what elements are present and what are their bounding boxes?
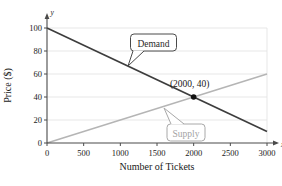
x-tick-label: 3000 bbox=[259, 148, 276, 158]
equilibrium-annotation: (2000, 40) bbox=[170, 79, 210, 90]
supply-demand-figure: xy050010001500200025003000020406080100Nu… bbox=[0, 0, 282, 186]
supply-callout-label: Supply bbox=[173, 129, 200, 139]
x-tick-label: 500 bbox=[77, 148, 90, 158]
chart-canvas: xy050010001500200025003000020406080100Nu… bbox=[0, 0, 282, 186]
x-axis-title: Number of Tickets bbox=[120, 161, 195, 172]
supply-line bbox=[47, 74, 267, 143]
y-axis-end-label: y bbox=[50, 8, 55, 17]
y-tick-label: 100 bbox=[29, 23, 42, 33]
demand-callout-label: Demand bbox=[137, 39, 169, 49]
x-tick-label: 0 bbox=[45, 148, 49, 158]
y-tick-label: 40 bbox=[34, 92, 43, 102]
y-tick-label: 0 bbox=[38, 138, 42, 148]
x-tick-label: 1000 bbox=[112, 148, 129, 158]
y-axis-arrow bbox=[45, 13, 50, 19]
x-tick-label: 2500 bbox=[222, 148, 239, 158]
y-tick-label: 80 bbox=[34, 46, 43, 56]
equilibrium-point bbox=[191, 94, 197, 100]
x-axis-arrow bbox=[273, 141, 279, 146]
x-tick-label: 2000 bbox=[185, 148, 202, 158]
y-tick-label: 60 bbox=[34, 69, 43, 79]
x-tick-label: 1500 bbox=[149, 148, 166, 158]
x-axis-end-label: x bbox=[280, 140, 282, 149]
y-axis-title: Price ($) bbox=[2, 68, 14, 103]
y-tick-label: 20 bbox=[34, 115, 43, 125]
